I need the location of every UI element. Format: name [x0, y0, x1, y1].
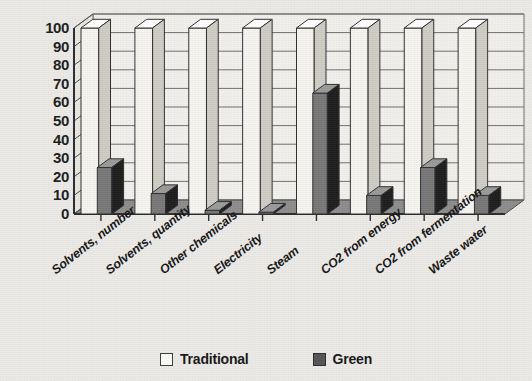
y-axis-tick-label: 70 — [53, 75, 69, 92]
bar-chart — [0, 0, 532, 381]
bar-traditional-front — [189, 28, 207, 214]
bar-green-front — [367, 195, 382, 214]
bar-traditional-side — [260, 19, 272, 214]
bar-green-front — [151, 194, 166, 214]
chart-plot-area — [0, 0, 532, 381]
bar-green-side — [327, 84, 339, 214]
y-axis-tick-label: 20 — [53, 168, 69, 185]
legend-label-traditional: Traditional — [180, 351, 249, 367]
bar-green-front — [205, 210, 220, 214]
bar-green-front — [97, 168, 112, 215]
legend-swatch-traditional-icon — [160, 353, 173, 366]
bar-traditional-front — [135, 28, 153, 214]
y-axis-tick-label: 50 — [53, 112, 69, 129]
y-axis-tick-label: 90 — [53, 38, 69, 55]
y-axis-tick-label: 10 — [53, 186, 69, 203]
y-axis-tick-label: 100 — [45, 19, 69, 36]
bar-green-side — [435, 159, 447, 214]
y-axis-tick-label: 40 — [53, 131, 69, 148]
bar-green-side — [112, 159, 124, 214]
y-axis-tick-label: 0 — [61, 205, 69, 222]
legend-item-traditional: Traditional — [160, 351, 249, 367]
legend-swatch-green-icon — [313, 353, 326, 366]
legend-label-green: Green — [333, 351, 372, 367]
chart-legend: Traditional Green — [0, 351, 532, 367]
bar-green-front — [313, 93, 328, 214]
y-axis-tick-label: 30 — [53, 149, 69, 166]
bar-traditional-side — [206, 19, 218, 214]
y-axis-tick-label: 60 — [53, 93, 69, 110]
bar-traditional-side — [368, 19, 380, 214]
bar-traditional-side — [476, 19, 488, 214]
bar-traditional-front — [404, 28, 422, 214]
bar-traditional-front — [350, 28, 368, 214]
legend-item-green: Green — [313, 351, 372, 367]
y-axis-tick-label: 80 — [53, 56, 69, 73]
bar-traditional-front — [243, 28, 261, 214]
bar-traditional-front — [81, 28, 99, 214]
bar-green-front — [421, 168, 436, 215]
bar-traditional-front — [297, 28, 315, 214]
